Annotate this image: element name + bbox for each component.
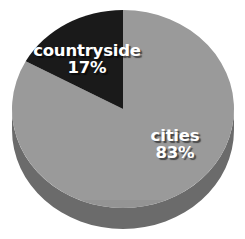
pie-chart-graphic: [0, 0, 245, 239]
pie-chart: countryside 17% cities 83%: [0, 0, 245, 239]
pie-top-face: [12, 10, 234, 208]
